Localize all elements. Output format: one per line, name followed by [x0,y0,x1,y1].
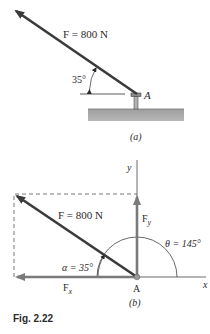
y-axis-label: y [126,162,132,173]
figure-caption: Fig. 2.22 [13,313,53,324]
figure-canvas: F = 800 N 35° A (a) y x F = 800 N α = 35… [0,0,210,334]
part-b-diagram: y x F = 800 N α = 35° θ = 145° Fy Fx A (… [14,160,208,309]
fy-label-sub: y [147,218,152,227]
part-a-diagram: F = 800 N 35° A (a) [16,11,184,143]
force-label-a: F = 800 N [63,28,108,40]
ground [88,109,184,121]
sublabel-b: (b) [129,297,141,309]
point-label-a: A [143,89,151,101]
angle-label-a: 35° [72,74,86,85]
theta-label: θ = 145° [165,238,201,249]
angle-arc-35 [90,68,97,90]
x-axis-label: x [202,279,208,290]
force-label-b: F = 800 N [58,209,103,221]
point-a [134,274,140,280]
sublabel-a: (a) [130,131,142,143]
bolt-post [134,96,138,109]
fx-label-sub: x [68,287,73,296]
fy-label: Fy [142,213,152,227]
alpha-label: α = 35° [62,262,93,273]
point-label-b: A [133,283,141,294]
fx-label: Fx [63,282,73,296]
